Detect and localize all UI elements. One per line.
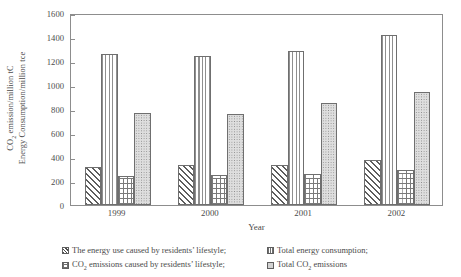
legend-label: Total energy consumption; (277, 246, 368, 255)
legend-label: The energy use caused by residents’ life… (72, 246, 226, 255)
x-axis-title: Year (70, 222, 443, 232)
bar (304, 174, 321, 205)
legend-label: CO2 emissions caused by residents’ lifes… (72, 260, 225, 271)
bar-group (178, 15, 244, 205)
bar (194, 56, 211, 205)
legend-label-post: emissions (311, 259, 347, 269)
bar (85, 167, 102, 205)
y-axis-tick-mark (71, 39, 75, 40)
bar-group (364, 15, 430, 205)
y-axis-title-line-2: CO2 emission/million tC (6, 65, 18, 150)
bar (118, 176, 135, 205)
bar (364, 160, 381, 205)
y-axis-tick-mark (71, 15, 75, 16)
legend-swatch-icon (267, 262, 274, 269)
bar (288, 51, 305, 205)
legend-label-pre: Total CO (277, 259, 308, 269)
y-axis-tick-label: 1200 (47, 57, 64, 67)
y-axis-tick-mark (71, 63, 75, 64)
bar (101, 54, 118, 205)
y-axis-tick-label: 0 (60, 201, 64, 211)
bar (134, 113, 151, 205)
bar (321, 103, 338, 205)
y-axis-tick-label: 1000 (47, 81, 64, 91)
plot-area (70, 14, 443, 206)
y-axis-tick-mark (71, 159, 75, 160)
y-axis-title-line-2-post: emission/million tC (6, 65, 15, 135)
y-axis-tick-label: 1600 (47, 9, 64, 19)
legend-label-pre: Total energy consumption; (277, 245, 368, 255)
y-axis-tick-label: 1400 (47, 33, 64, 43)
bar (178, 165, 195, 205)
bar (397, 170, 414, 205)
y-axis-tick-mark (71, 87, 75, 88)
legend-swatch-icon (62, 262, 69, 269)
y-axis-title-line-1: Energy Consumption/million tce (18, 51, 28, 164)
y-axis-tick-mark (71, 135, 75, 136)
y-axis-tick-labels: 02004006008001000120014001600 (28, 0, 68, 215)
legend-label-pre: CO (72, 259, 84, 269)
y-axis-tick-label: 400 (51, 153, 64, 163)
legend-label-pre: The energy use caused by residents’ life… (72, 245, 226, 255)
y-axis-tick-label: 200 (51, 177, 64, 187)
y-axis-tick-mark (71, 111, 75, 112)
bar (271, 165, 288, 205)
y-axis-tick-label: 600 (51, 129, 64, 139)
legend-label: Total CO2 emissions (277, 260, 347, 271)
bar (414, 92, 431, 205)
legend-swatch-icon (62, 247, 69, 254)
bar (227, 114, 244, 205)
bar-groups (71, 15, 442, 205)
bar-chart-figure: Energy Consumption/million tce CO2 emiss… (0, 0, 461, 277)
bar-group (85, 15, 151, 205)
legend-label-post: emissions caused by residents’ lifestyle… (87, 259, 225, 269)
x-axis-tick-label: 2002 (388, 208, 406, 218)
bar (211, 175, 228, 205)
chart-legend: The energy use caused by residents’ life… (62, 243, 452, 273)
x-axis-tick-label: 1999 (108, 208, 126, 218)
bar (381, 35, 398, 205)
y-axis-tick-label: 800 (51, 105, 64, 115)
bar-group (271, 15, 337, 205)
x-axis-tick-label: 2000 (201, 208, 219, 218)
y-axis-tick-mark (71, 183, 75, 184)
legend-item[interactable]: CO2 emissions caused by residents’ lifes… (62, 260, 267, 271)
legend-item[interactable]: Total energy consumption; (267, 246, 452, 255)
legend-swatch-icon (267, 247, 274, 254)
legend-item[interactable]: The energy use caused by residents’ life… (62, 246, 267, 255)
y-axis-title-line-2-pre: CO (6, 138, 15, 150)
legend-item[interactable]: Total CO2 emissions (267, 260, 452, 271)
x-axis-tick-label: 2001 (294, 208, 312, 218)
